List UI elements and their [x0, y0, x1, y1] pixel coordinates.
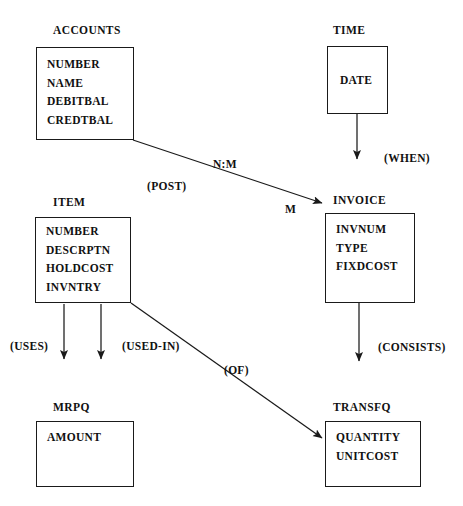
- attribute: NUMBER: [47, 55, 129, 74]
- entity-box-time[interactable]: DATE: [327, 46, 388, 114]
- attribute: INVNUM: [336, 220, 410, 239]
- edge-label-uses: (USES): [10, 340, 48, 352]
- entity-box-accounts[interactable]: NUMBER NAME DEBITBAL CREDTBAL: [36, 47, 134, 140]
- edge-label-consists: (CONSISTS): [378, 341, 446, 353]
- edge-label-cardinality-m: M: [285, 203, 296, 215]
- attribute: QUANTITY: [336, 428, 416, 447]
- entity-box-transfq[interactable]: QUANTITY UNITCOST: [325, 421, 421, 487]
- attribute: HOLDCOST: [46, 259, 126, 278]
- attribute-list-accounts: NUMBER NAME DEBITBAL CREDTBAL: [47, 55, 129, 129]
- edge-accounts-invoice: [133, 140, 322, 203]
- edge-label-used-in: (USED-IN): [122, 340, 180, 352]
- attribute-list-time: DATE: [340, 71, 383, 90]
- er-diagram-canvas: THE INTEGRATED DATABASE MODEL ACCOUNTS N…: [0, 0, 463, 506]
- attribute: NAME: [47, 74, 129, 93]
- entity-title-mrpq: MRPQ: [53, 401, 90, 413]
- attribute: DATE: [340, 71, 383, 90]
- edge-label-post: (POST): [147, 180, 187, 192]
- entity-title-item: ITEM: [53, 196, 85, 208]
- entity-title-transfq: TRANSFQ: [333, 401, 391, 413]
- attribute-list-transfq: QUANTITY UNITCOST: [336, 428, 416, 465]
- attribute: DESCRPTN: [46, 241, 126, 260]
- diagram-title: THE INTEGRATED DATABASE MODEL: [0, 0, 463, 2]
- attribute: TYPE: [336, 239, 410, 258]
- attribute: UNITCOST: [336, 447, 416, 466]
- attribute: AMOUNT: [47, 428, 129, 447]
- attribute-list-invoice: INVNUM TYPE FIXDCOST: [336, 220, 410, 276]
- entity-box-item[interactable]: NUMBER DESCRPTN HOLDCOST INVNTRY: [35, 217, 131, 303]
- entity-title-invoice: INVOICE: [333, 194, 386, 206]
- attribute: INVNTRY: [46, 278, 126, 297]
- entity-box-invoice[interactable]: INVNUM TYPE FIXDCOST: [325, 213, 415, 303]
- attribute: FIXDCOST: [336, 257, 410, 276]
- edge-label-cardinality-nm: N:M: [213, 158, 237, 170]
- attribute: NUMBER: [46, 222, 126, 241]
- entity-title-accounts: ACCOUNTS: [53, 24, 121, 36]
- edge-label-of: (OF): [224, 364, 249, 376]
- attribute-list-mrpq: AMOUNT: [47, 428, 129, 447]
- attribute: DEBITBAL: [47, 92, 129, 111]
- attribute-list-item: NUMBER DESCRPTN HOLDCOST INVNTRY: [46, 222, 126, 296]
- entity-box-mrpq[interactable]: AMOUNT: [36, 421, 134, 487]
- entity-title-time: TIME: [333, 24, 365, 36]
- edge-label-when: (WHEN): [384, 152, 430, 164]
- attribute: CREDTBAL: [47, 111, 129, 130]
